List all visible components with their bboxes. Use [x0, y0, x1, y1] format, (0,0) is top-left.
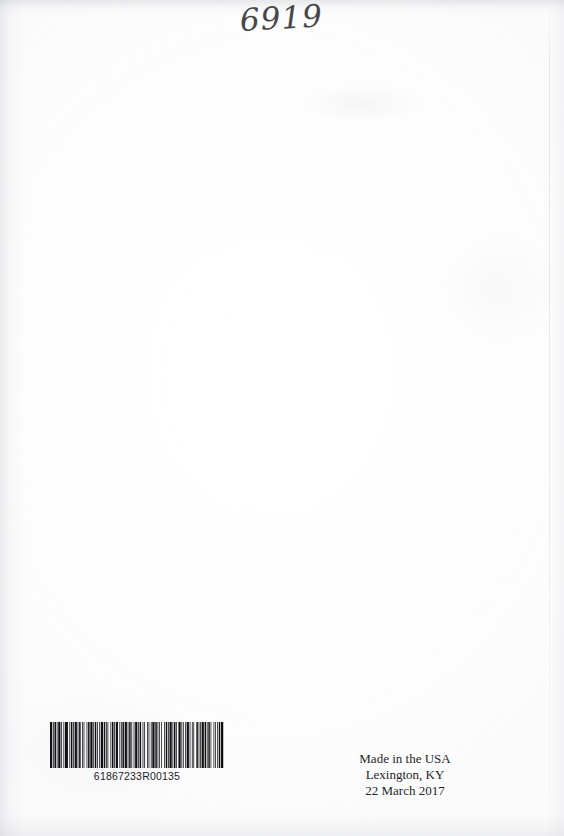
handwritten-number: 6919: [239, 0, 361, 38]
paper-background: [0, 0, 564, 836]
imprint-line-date: 22 March 2017: [315, 783, 495, 799]
imprint-line-made-in: Made in the USA: [315, 751, 495, 767]
book-back-cover-page: 6919 61867233R00135 Made in the USA Lexi…: [0, 0, 564, 836]
barcode-icon: [50, 722, 224, 768]
barcode-block: 61867233R00135: [50, 722, 224, 782]
barcode-number-text: 61867233R00135: [50, 770, 224, 782]
imprint-block: Made in the USA Lexington, KY 22 March 2…: [315, 751, 495, 800]
imprint-line-city: Lexington, KY: [315, 767, 495, 783]
